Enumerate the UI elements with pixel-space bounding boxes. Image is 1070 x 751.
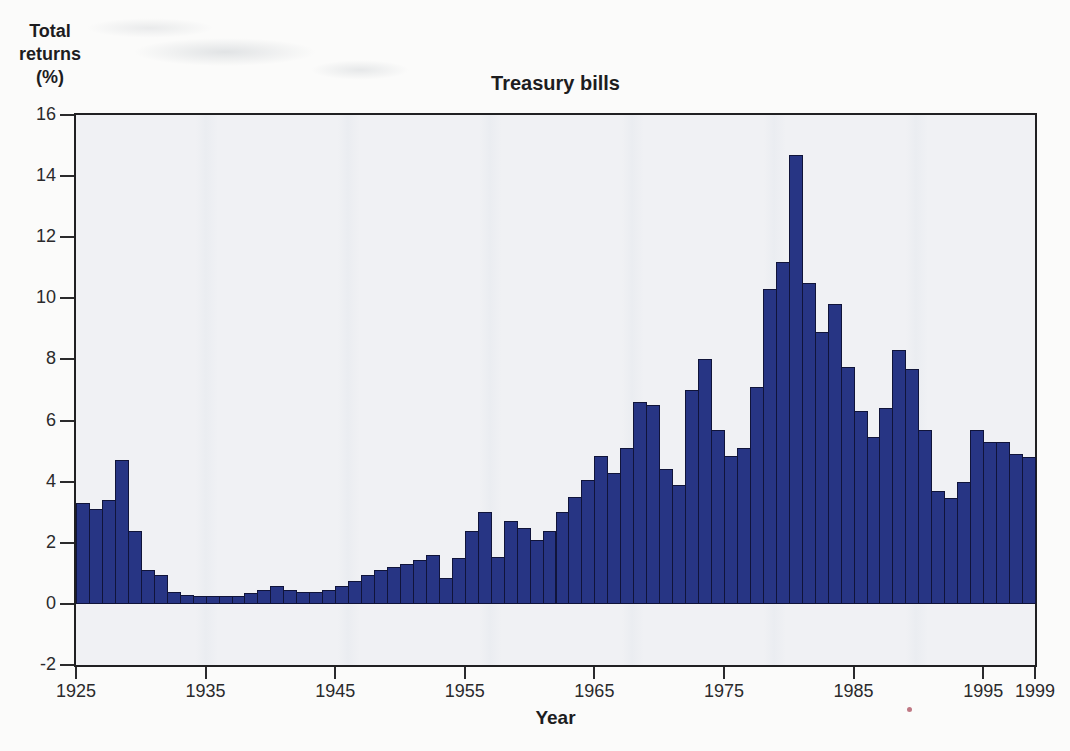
y-tick-label-0: 0 — [4, 593, 56, 614]
bar-1930 — [128, 531, 142, 604]
x-tick-label-1975: 1975 — [692, 681, 756, 702]
bar-1938 — [232, 596, 246, 604]
bar-1997 — [996, 442, 1010, 604]
y-tick-label-4: 4 — [4, 471, 56, 492]
x-axis-title: Year — [76, 707, 1035, 729]
y-tick--2 — [60, 664, 74, 666]
bar-1996 — [983, 442, 997, 604]
bar-1954 — [439, 578, 453, 604]
y-axis-title-line-1: Total — [6, 20, 94, 43]
y-tick-10 — [60, 297, 74, 299]
x-tick-1995 — [982, 667, 984, 679]
bar-1960 — [517, 528, 531, 604]
bar-1946 — [335, 586, 349, 604]
x-tick-1965 — [593, 667, 595, 679]
bar-1991 — [918, 430, 932, 604]
bar-1967 — [607, 473, 621, 604]
bar-1993 — [944, 498, 958, 603]
bar-1985 — [841, 367, 855, 604]
x-tick-label-1965: 1965 — [562, 681, 626, 702]
bar-1952 — [413, 560, 427, 604]
bar-1980 — [776, 262, 790, 604]
bar-1995 — [970, 430, 984, 604]
bar-1953 — [426, 555, 440, 604]
bar-1929 — [115, 460, 129, 604]
treasury-bills-chart-figure: Total returns (%) Treasury bills 1614121… — [0, 0, 1070, 751]
y-tick-label-10: 10 — [4, 287, 56, 308]
bar-1970 — [646, 405, 660, 604]
bar-1979 — [763, 289, 777, 604]
bar-1937 — [219, 596, 233, 604]
y-tick-14 — [60, 175, 74, 177]
x-tick-label-1999: 1999 — [1003, 681, 1067, 702]
bar-1948 — [361, 575, 375, 604]
x-tick-label-1985: 1985 — [822, 681, 886, 702]
bar-1984 — [828, 304, 842, 603]
bar-1966 — [594, 456, 608, 604]
bar-1992 — [931, 491, 945, 604]
bar-1926 — [76, 503, 90, 604]
y-tick-label-16: 16 — [4, 104, 56, 125]
y-tick-label-2: 2 — [4, 532, 56, 553]
y-tick-2 — [60, 542, 74, 544]
bar-1944 — [309, 592, 323, 604]
bar-1977 — [737, 448, 751, 604]
y-tick-6 — [60, 420, 74, 422]
bar-1927 — [89, 509, 103, 604]
bar-1959 — [504, 521, 518, 604]
x-tick-label-1955: 1955 — [433, 681, 497, 702]
y-axis-title-line-2: returns — [6, 43, 94, 66]
bar-1987 — [867, 437, 881, 604]
bar-1945 — [322, 590, 336, 604]
bar-1968 — [620, 448, 634, 604]
bar-1931 — [141, 570, 155, 604]
bar-1969 — [633, 402, 647, 604]
bar-1988 — [879, 408, 893, 604]
bar-1971 — [659, 469, 673, 603]
bar-1998 — [1009, 454, 1023, 604]
x-tick-1935 — [205, 667, 207, 679]
bar-1943 — [296, 592, 310, 604]
x-tick-label-1945: 1945 — [303, 681, 367, 702]
y-tick-label-6: 6 — [4, 410, 56, 431]
x-tick-1955 — [464, 667, 466, 679]
x-tick-1985 — [853, 667, 855, 679]
y-tick-8 — [60, 358, 74, 360]
bar-1963 — [556, 512, 570, 604]
x-tick-label-1935: 1935 — [174, 681, 238, 702]
bar-1947 — [348, 581, 362, 604]
chart-title: Treasury bills — [76, 72, 1035, 95]
bar-1974 — [698, 359, 712, 603]
bar-1978 — [750, 387, 764, 604]
y-tick-label--2: -2 — [4, 654, 56, 675]
plot-area — [74, 113, 1037, 667]
bar-1976 — [724, 456, 738, 604]
bar-1990 — [905, 369, 919, 604]
bar-1965 — [581, 480, 595, 604]
bar-1941 — [270, 586, 284, 604]
bar-1928 — [102, 500, 116, 604]
bar-1934 — [180, 595, 194, 604]
bar-1933 — [167, 592, 181, 604]
y-tick-12 — [60, 236, 74, 238]
bar-1957 — [478, 512, 492, 604]
bar-1975 — [711, 430, 725, 604]
bar-1958 — [491, 557, 505, 604]
bar-1973 — [685, 390, 699, 604]
bar-1932 — [154, 575, 168, 604]
bar-1939 — [244, 593, 258, 604]
y-tick-label-14: 14 — [4, 165, 56, 186]
bar-1999 — [1022, 457, 1036, 604]
y-tick-label-8: 8 — [4, 348, 56, 369]
bar-1949 — [374, 570, 388, 604]
bar-1940 — [257, 590, 271, 604]
y-tick-4 — [60, 481, 74, 483]
y-tick-label-12: 12 — [4, 226, 56, 247]
bar-1972 — [672, 485, 686, 604]
bar-1936 — [206, 596, 220, 604]
bar-1951 — [400, 564, 414, 604]
y-tick-16 — [60, 114, 74, 116]
x-tick-label-1925: 1925 — [44, 681, 108, 702]
bar-1955 — [452, 558, 466, 604]
bar-1989 — [892, 350, 906, 604]
